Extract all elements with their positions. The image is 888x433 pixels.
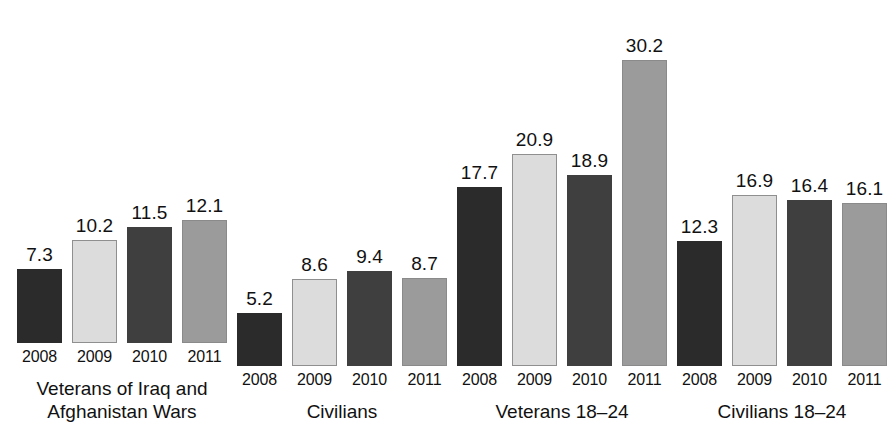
bar-value-label: 10.2: [76, 216, 113, 235]
bar-value-label: 12.1: [186, 196, 223, 215]
bar-rect[interactable]: [72, 240, 117, 343]
bar-rect[interactable]: [237, 313, 282, 366]
bar-rect[interactable]: [787, 200, 832, 366]
bars-area: 7.310.211.512.1: [12, 0, 232, 343]
group-label-line1: Civilians: [307, 401, 378, 422]
year-label: 2008: [232, 370, 287, 390]
bar-rect[interactable]: [732, 195, 777, 366]
bar-slot: 12.1: [177, 0, 232, 343]
bar-slot: 17.7: [452, 22, 507, 366]
bar-rect[interactable]: [622, 60, 667, 366]
group-label: Civilians: [307, 400, 378, 423]
year-label: 2010: [562, 370, 617, 390]
bars-area: 17.720.918.930.2: [452, 22, 672, 366]
group-label: Veterans 18–24: [495, 400, 628, 423]
bar-rect[interactable]: [17, 269, 62, 343]
bar-slot: 9.4: [342, 22, 397, 366]
bar-value-label: 5.2: [246, 289, 273, 308]
year-label: 2009: [727, 370, 782, 390]
year-label: 2008: [12, 347, 67, 367]
bar-group: 12.316.916.416.12008200920102011Civilian…: [672, 0, 888, 433]
bar-value-label: 9.4: [356, 247, 383, 266]
year-label: 2011: [177, 347, 232, 367]
bar-slot: 30.2: [617, 22, 672, 366]
bar-value-label: 8.7: [411, 254, 438, 273]
year-label: 2008: [452, 370, 507, 390]
bar-slot: 8.6: [287, 22, 342, 366]
bar-rect[interactable]: [182, 220, 227, 343]
bar-value-label: 16.1: [846, 179, 883, 198]
bar-rect[interactable]: [567, 175, 612, 366]
group-label-line2: Afghanistan Wars: [36, 400, 207, 423]
year-label: 2011: [617, 370, 672, 390]
bar-value-label: 7.3: [26, 245, 53, 264]
bar-slot: 16.9: [727, 22, 782, 366]
year-labels-row: 2008200920102011: [452, 370, 672, 390]
bar-slot: 7.3: [12, 0, 67, 343]
bar-value-label: 16.4: [791, 176, 828, 195]
group-label-line1: Civilians 18–24: [718, 401, 847, 422]
bar-slot: 20.9: [507, 22, 562, 366]
year-label: 2009: [287, 370, 342, 390]
bar-value-label: 8.6: [301, 255, 328, 274]
group-label: Veterans of Iraq andAfghanistan Wars: [36, 377, 207, 423]
bar-value-label: 18.9: [571, 151, 608, 170]
year-labels-row: 2008200920102011: [12, 347, 232, 367]
bar-slot: 18.9: [562, 22, 617, 366]
bar-groups-container: 7.310.211.512.12008200920102011Veterans …: [0, 0, 888, 433]
bar-slot: 12.3: [672, 22, 727, 366]
bars-area: 12.316.916.416.1: [672, 22, 888, 366]
bar-rect[interactable]: [402, 278, 447, 366]
bar-chart: 7.310.211.512.12008200920102011Veterans …: [0, 0, 888, 433]
year-label: 2009: [67, 347, 122, 367]
group-label-line1: Veterans of Iraq and: [36, 378, 207, 399]
bar-value-label: 12.3: [681, 217, 718, 236]
bar-group: 5.28.69.48.72008200920102011Civilians: [232, 0, 452, 433]
bar-slot: 16.4: [782, 22, 837, 366]
year-labels-row: 2008200920102011: [232, 370, 452, 390]
group-label: Civilians 18–24: [718, 400, 847, 423]
year-label: 2008: [672, 370, 727, 390]
bar-slot: 10.2: [67, 0, 122, 343]
year-labels-row: 2008200920102011: [672, 370, 888, 390]
year-label: 2010: [122, 347, 177, 367]
bar-rect[interactable]: [842, 203, 887, 366]
year-label: 2009: [507, 370, 562, 390]
bar-value-label: 16.9: [736, 171, 773, 190]
bar-rect[interactable]: [457, 187, 502, 366]
year-label: 2010: [782, 370, 837, 390]
bar-group: 17.720.918.930.22008200920102011Veterans…: [452, 0, 672, 433]
bars-area: 5.28.69.48.7: [232, 22, 452, 366]
bar-value-label: 20.9: [516, 130, 553, 149]
bar-group: 7.310.211.512.12008200920102011Veterans …: [12, 0, 232, 433]
bar-value-label: 17.7: [461, 163, 498, 182]
bar-rect[interactable]: [292, 279, 337, 366]
group-label-line1: Veterans 18–24: [495, 401, 628, 422]
bar-slot: 5.2: [232, 22, 287, 366]
bar-slot: 8.7: [397, 22, 452, 366]
bar-value-label: 30.2: [626, 36, 663, 55]
bar-value-label: 11.5: [132, 203, 168, 222]
bar-rect[interactable]: [677, 241, 722, 366]
bar-slot: 16.1: [837, 22, 888, 366]
bar-rect[interactable]: [127, 227, 172, 343]
bar-slot: 11.5: [122, 0, 177, 343]
year-label: 2011: [397, 370, 452, 390]
bar-rect[interactable]: [347, 271, 392, 366]
bar-rect[interactable]: [512, 154, 557, 366]
year-label: 2010: [342, 370, 397, 390]
year-label: 2011: [837, 370, 888, 390]
